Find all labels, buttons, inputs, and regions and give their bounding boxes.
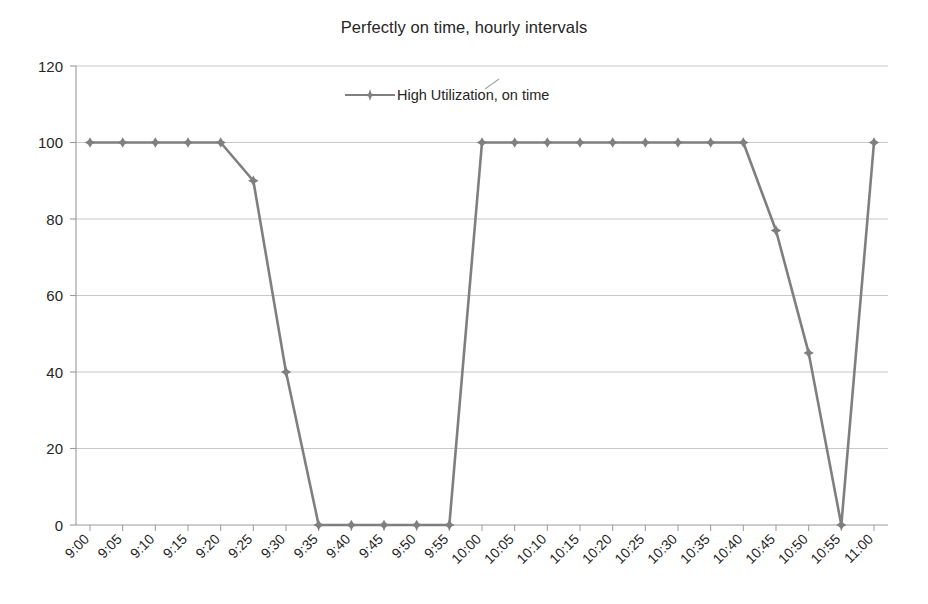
data-point-marker (281, 367, 291, 377)
y-axis-tick-marks (70, 66, 76, 525)
y-axis-tick-label: 120 (38, 58, 63, 75)
x-axis-tick-label: 9:45 (356, 531, 387, 562)
data-point-marker (836, 520, 846, 530)
x-axis-tick-label: 10:10 (513, 531, 549, 567)
chart-container: Perfectly on time, hourly intervals High… (0, 0, 928, 604)
x-axis-tick-label: 11:00 (841, 531, 877, 567)
data-point-marker (150, 137, 160, 147)
x-axis-tick-label: 9:00 (62, 531, 93, 562)
x-axis-ticks (90, 525, 874, 531)
x-axis-tick-label: 10:55 (807, 531, 843, 567)
x-axis-tick-label: 9:05 (94, 531, 125, 562)
x-axis-tick-label: 9:35 (290, 531, 321, 562)
data-point-marker (444, 520, 454, 530)
y-axis-tick-label: 40 (46, 364, 63, 381)
y-axis-tick-label: 20 (46, 440, 63, 457)
data-point-marker (673, 137, 683, 147)
x-axis-labels: 9:009:059:109:159:209:259:309:359:409:45… (62, 531, 877, 567)
x-axis-tick-label: 9:15 (160, 531, 191, 562)
data-point-marker (85, 137, 95, 147)
data-point-marker (313, 520, 323, 530)
x-axis-tick-label: 9:40 (323, 531, 354, 562)
x-axis-tick-label: 10:05 (481, 531, 517, 567)
x-axis-tick-label: 10:30 (644, 531, 680, 567)
y-axis-tick-label: 100 (38, 134, 63, 151)
data-point-marker (183, 137, 193, 147)
gridlines (76, 66, 888, 525)
data-point-marker (509, 137, 519, 147)
x-axis-tick-label: 10:00 (448, 531, 484, 567)
x-axis-tick-label: 10:35 (677, 531, 713, 567)
x-axis-tick-label: 9:20 (192, 531, 223, 562)
data-point-marker (640, 137, 650, 147)
x-axis-tick-label: 9:25 (225, 531, 256, 562)
data-point-marker (117, 137, 127, 147)
data-point-marker (869, 137, 879, 147)
data-point-marker (607, 137, 617, 147)
data-point-marker (379, 520, 389, 530)
x-axis-tick-label: 10:45 (742, 531, 778, 567)
y-axis-tick-label: 0 (55, 517, 63, 534)
data-point-marker (803, 348, 813, 358)
x-axis-tick-label: 9:50 (388, 531, 419, 562)
x-axis-tick-label: 9:55 (421, 531, 452, 562)
x-axis-tick-label: 10:50 (775, 531, 811, 567)
data-series-layer (85, 137, 879, 530)
y-axis-tick-label: 80 (46, 211, 63, 228)
x-axis-tick-label: 9:30 (258, 531, 289, 562)
x-axis-tick-label: 10:20 (579, 531, 615, 567)
x-axis-tick-label: 9:10 (127, 531, 158, 562)
plot-area: 020406080100120 9:009:059:109:159:209:25… (0, 0, 928, 604)
y-axis-tick-label: 60 (46, 287, 63, 304)
data-point-marker (542, 137, 552, 147)
data-point-marker (477, 137, 487, 147)
data-point-marker (411, 520, 421, 530)
x-axis-tick-label: 10:40 (709, 531, 745, 567)
data-point-marker (575, 137, 585, 147)
x-axis-tick-label: 10:25 (611, 531, 647, 567)
data-point-marker (738, 137, 748, 147)
x-axis-tick-label: 10:15 (546, 531, 582, 567)
series-line (90, 143, 874, 526)
data-point-marker (771, 225, 781, 235)
data-point-marker (705, 137, 715, 147)
y-axis-labels: 020406080100120 (38, 58, 63, 534)
data-point-marker (346, 520, 356, 530)
